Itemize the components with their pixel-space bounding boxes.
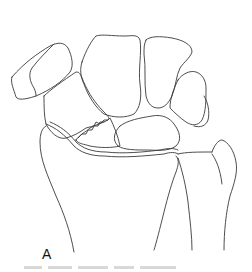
wrist-bones-illustration — [0, 0, 252, 272]
bone-radius — [40, 126, 74, 252]
ulnar-styloid — [212, 140, 237, 250]
bone-hamate — [144, 37, 192, 108]
bone-trapezium-outer — [11, 43, 72, 99]
ulna-joint-top — [178, 152, 212, 154]
ulnar-styloid-inner — [212, 154, 222, 184]
radius-articular-surface — [46, 124, 178, 157]
wrist-bones-svg — [0, 0, 252, 272]
bone-pisiform — [194, 96, 209, 127]
ulna-head-outline — [154, 156, 178, 250]
bone-capitate — [81, 35, 141, 117]
bone-lunate — [114, 115, 179, 150]
panel-label: A — [42, 247, 51, 261]
bone-triquetrum — [170, 71, 206, 124]
ulna-shaft-inner — [178, 158, 192, 250]
caption-cutoff — [24, 266, 224, 270]
bone-scaphoid-fracture-fragment — [76, 118, 120, 148]
